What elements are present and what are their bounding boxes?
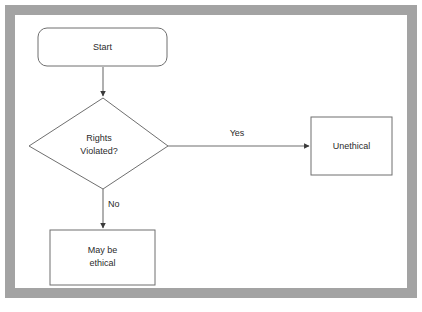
node-decision-label-line2: Violated? xyxy=(80,146,117,156)
flowchart-diagram: Yes No Start Rights Violated? Unethical … xyxy=(0,0,422,312)
edge-label-no: No xyxy=(108,199,120,209)
node-may-be-ethical-label-line2: ethical xyxy=(89,258,115,268)
node-start-label: Start xyxy=(93,42,113,52)
node-unethical-label: Unethical xyxy=(333,141,371,151)
edge-decision-to-may-be-ethical: No xyxy=(103,189,120,228)
node-may-be-ethical-label-line1: May be xyxy=(88,245,118,255)
edge-decision-to-unethical: Yes xyxy=(168,128,309,146)
node-decision[interactable]: Rights Violated? xyxy=(29,98,168,189)
node-may-be-ethical[interactable]: May be ethical xyxy=(50,230,155,285)
flowchart-canvas: Yes No Start Rights Violated? Unethical … xyxy=(0,0,422,312)
edge-label-yes: Yes xyxy=(230,128,245,138)
node-decision-shape[interactable] xyxy=(29,98,168,189)
node-start[interactable]: Start xyxy=(38,28,167,66)
node-decision-label-line1: Rights xyxy=(86,133,112,143)
node-unethical[interactable]: Unethical xyxy=(311,117,392,175)
